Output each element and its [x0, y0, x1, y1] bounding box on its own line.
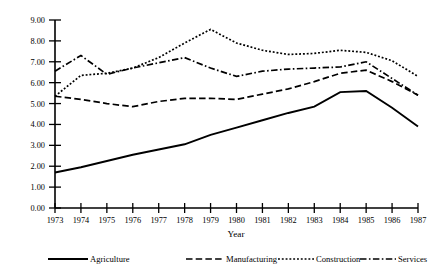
- x-tick-label: 1987: [410, 216, 427, 225]
- x-axis-title: Year: [228, 229, 245, 239]
- chart-canvas: 0.001.002.003.004.005.006.007.008.009.00…: [0, 0, 437, 277]
- x-tick-label: 1980: [228, 216, 245, 225]
- x-tick-label: 1978: [176, 216, 193, 225]
- legend-item-services[interactable]: Services: [360, 254, 428, 264]
- x-tick-label: 1985: [358, 216, 375, 225]
- chart-legend: AgricultureManufacturingConstructionServ…: [48, 254, 428, 264]
- data-series-layer: [55, 29, 418, 172]
- x-tick-label: 1976: [124, 216, 141, 225]
- x-tick-labels: 1973197419751976197719781979198019811982…: [47, 216, 427, 225]
- y-tick-label: 9.00: [30, 16, 45, 25]
- x-tick-label: 1979: [202, 216, 219, 225]
- y-tick-label: 7.00: [30, 58, 45, 67]
- legend-item-construction[interactable]: Construction: [278, 254, 361, 264]
- legend-label-construction: Construction: [316, 254, 361, 264]
- x-tick-label: 1974: [73, 216, 90, 225]
- x-tick-label: 1982: [280, 216, 297, 225]
- x-tick-label: 1977: [150, 216, 167, 225]
- series-line-services: [55, 56, 418, 96]
- line-chart-figure: 0.001.002.003.004.005.006.007.008.009.00…: [0, 0, 437, 277]
- y-tick-label: 8.00: [30, 37, 45, 46]
- y-tick-label: 1.00: [30, 183, 45, 192]
- legend-label-agriculture: Agriculture: [90, 254, 130, 264]
- legend-item-manufacturing[interactable]: Manufacturing: [186, 254, 278, 264]
- y-tick-label: 5.00: [30, 100, 45, 109]
- y-tick-label: 3.00: [30, 141, 45, 150]
- y-tick-labels: 0.001.002.003.004.005.006.007.008.009.00: [30, 16, 45, 213]
- legend-label-services: Services: [398, 254, 428, 264]
- y-tick-label: 0.00: [30, 204, 45, 213]
- y-tick-label: 2.00: [30, 162, 45, 171]
- x-tick-label: 1973: [47, 216, 64, 225]
- x-tick-label: 1975: [99, 216, 116, 225]
- legend-item-agriculture[interactable]: Agriculture: [48, 254, 130, 264]
- x-tick-label: 1984: [332, 216, 349, 225]
- x-tick-label: 1981: [254, 216, 271, 225]
- y-tick-label: 6.00: [30, 79, 45, 88]
- x-axis-group: 1973197419751976197719781979198019811982…: [47, 203, 427, 239]
- x-tick-label: 1983: [306, 216, 323, 225]
- y-axis-group: 0.001.002.003.004.005.006.007.008.009.00: [30, 16, 61, 213]
- x-tick-label: 1986: [384, 216, 401, 225]
- y-tick-label: 4.00: [30, 120, 45, 129]
- legend-label-manufacturing: Manufacturing: [226, 254, 278, 264]
